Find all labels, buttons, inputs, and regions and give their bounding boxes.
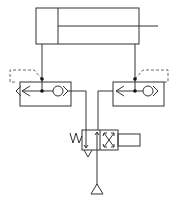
right-check-valve	[98, 70, 168, 130]
directional-valve	[70, 130, 140, 157]
spring-icon	[70, 133, 82, 143]
pneumatic-circuit-diagram	[0, 0, 178, 203]
left-check-valve	[10, 70, 86, 130]
pressure-source-icon	[91, 184, 103, 194]
cylinder	[36, 8, 158, 44]
solenoid-actuator	[118, 134, 140, 146]
